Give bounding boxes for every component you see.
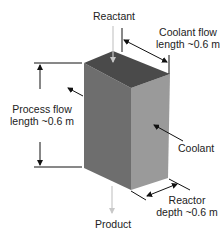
reactor-depth-label: Reactor depth ~0.6 m: [150, 194, 224, 218]
reactor-box: [84, 51, 170, 190]
reactant-label: Reactant: [93, 10, 135, 22]
process-flow-label: Process flow length ~0.6 m: [4, 103, 80, 127]
coolant-flow-line2: length ~0.6 m: [152, 38, 224, 50]
coolant-outlet-arrow: [68, 88, 83, 96]
reactor-depth-line2: depth ~0.6 m: [150, 206, 224, 218]
coolant-flow-line1: Coolant flow: [152, 26, 224, 38]
process-flow-line2: length ~0.6 m: [4, 115, 80, 127]
right-face: [131, 74, 170, 190]
product-label: Product: [95, 218, 131, 230]
reactor-depth-line1: Reactor: [150, 194, 224, 206]
coolant-flow-label: Coolant flow length ~0.6 m: [152, 26, 224, 50]
coolant-label: Coolant: [178, 142, 214, 154]
process-flow-line1: Process flow: [4, 103, 80, 115]
